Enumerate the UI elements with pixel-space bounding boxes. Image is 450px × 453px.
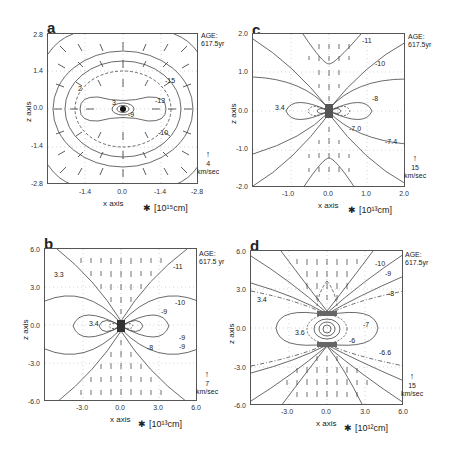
vector-field-plot: -10 -9 -8 3.4 -7 3.6 -6 -6.6 [250,250,403,405]
x-tick: -3.0 [275,408,299,415]
velocity-unit: km/sec [401,390,423,398]
contour-label: -10 [375,260,385,267]
x-tick: -1.0 [276,190,300,197]
contour-label: -9 [161,308,167,315]
contour-label: 3.4 [275,104,285,111]
age-value: 617.5yr [408,41,431,49]
vector-field-plot: -11 -10 3.4 -8 -7.0 -7.4 [252,33,405,187]
x-tick: 6.0 [184,404,208,411]
contour-label: -13 [155,97,165,104]
contour-label: -6 [349,337,355,344]
y-tick: -6.0 [220,402,246,409]
x-tick: 2.0 [392,190,416,197]
y-tick: -1.0 [222,145,248,152]
x-tick: -2.8 [185,188,209,195]
velocity-scale: ↑ 7 km/sec [196,370,218,395]
contour-label: -15 [165,77,175,84]
y-axis-label: z axis [24,102,33,122]
contour-label: -9 [128,111,134,118]
contour-and-velocity-field [45,249,197,401]
x-tick: 0.0 [110,188,134,195]
x-tick: 3.0 [146,404,170,411]
contour-and-velocity-field [251,251,403,405]
velocity-scale: ↑ 15 km/sec [404,154,426,179]
contour-label: -7 [363,321,369,328]
contour-label: -7.4 [385,138,397,145]
contour-label: 3.3 [54,271,64,278]
y-axis-label: z axis [227,324,236,344]
y-tick: 2.0 [222,30,248,37]
age-label: AGE: 617.5yr [408,33,431,49]
contour-label: 3.6 [295,329,305,336]
unit-label: ✱[10¹⁵cm] [143,203,188,213]
velocity-value: 15 [404,164,426,172]
velocity-scale: ↑ 15 km/sec [401,372,423,397]
y-tick: -1.4 [17,142,43,149]
x-axis-label: x axis [103,199,123,208]
x-tick: -1.4 [73,188,97,195]
x-axis-label: x axis [316,419,336,428]
age-title: AGE: [405,251,428,259]
contour-label: -10 [375,60,385,67]
velocity-value: 7 [196,380,218,388]
x-tick: 3.0 [353,408,377,415]
x-tick: -3.0 [70,404,94,411]
y-axis-label: z axis [229,104,238,124]
velocity-arrow-icon: ↑ [404,154,426,164]
contour-label: -10 [158,129,168,136]
contour-label: 2 [78,85,82,92]
age-value: 617.5yr [405,259,428,267]
velocity-unit: km/sec [404,172,426,180]
unit-value: [10¹³cm] [149,419,182,429]
unit-value: [10¹³cm] [359,205,392,215]
y-tick: -6.0 [14,398,40,405]
contour-label: -8 [147,344,153,351]
velocity-unit: km/sec [197,168,219,176]
y-tick: 1.4 [17,67,43,74]
unit-label: ✱[10¹³cm] [138,419,182,429]
contour-label: -8 [388,290,394,297]
star-icon: ✱ [138,419,146,429]
y-tick: -2.8 [17,180,43,187]
contour-label: -10 [175,299,185,306]
x-tick: 6.0 [391,408,415,415]
contour-label: -9 [179,334,185,341]
unit-label: ✱[10¹³cm] [348,205,392,215]
velocity-unit: km/sec [196,388,218,396]
unit-value: [10¹²cm] [355,423,388,433]
contour-label: -11 [173,263,183,270]
y-tick: 3.0 [14,284,40,291]
star-icon: ✱ [143,203,151,213]
x-tick: 0.0 [316,190,340,197]
y-axis-label: z axis [21,320,30,340]
y-tick: 6.0 [220,248,246,255]
contour-label: -11 [362,37,372,44]
age-value: 617.5 yr [199,258,224,266]
age-title: AGE: [408,33,431,41]
y-tick: -3.0 [220,364,246,371]
vector-field-plot: -15 -13 -9 -10 2 3 [47,33,198,184]
contour-label: -8 [372,95,378,102]
y-tick: -3.0 [14,360,40,367]
age-label: AGE: 617.5yr [201,32,224,48]
contour-and-velocity-field [48,34,198,184]
star-icon: ✱ [348,205,356,215]
velocity-arrow-icon: ↑ [197,150,219,160]
velocity-value: 4 [197,160,219,168]
x-tick: 0.0 [108,404,132,411]
unit-value: [10¹⁵cm] [154,203,188,213]
y-tick: -2.0 [222,183,248,190]
age-value: 617.5yr [201,40,224,48]
age-label: AGE: 617.5yr [405,251,428,267]
contour-label: 3 [112,99,116,106]
contour-label: -9 [385,270,391,277]
contour-label: -9 [179,343,185,350]
y-tick: 2.8 [17,31,43,38]
x-axis-label: x axis [110,415,130,424]
velocity-arrow-icon: ↑ [196,370,218,380]
vector-field-plot: -11 3.3 -10 -9 3.4 -9 -8 -9 [44,248,197,401]
x-tick: -1.4 [148,188,172,195]
contour-label: -6.6 [379,349,391,356]
x-tick: 1.0 [354,190,378,197]
velocity-value: 15 [401,382,423,390]
